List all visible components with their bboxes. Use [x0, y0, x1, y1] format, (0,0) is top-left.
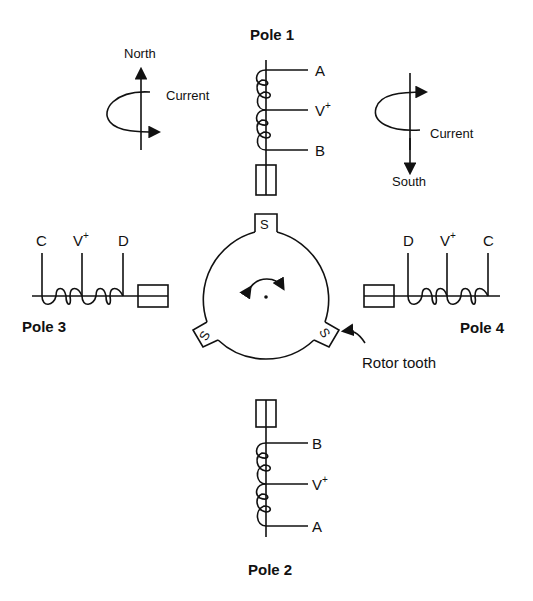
tap-b: B [312, 435, 322, 452]
rotor-tooth-label: Rotor tooth [362, 354, 436, 371]
tap-c: C [483, 232, 494, 249]
stepper-motor-diagram: Pole 1 A V+ B North Current Current Sout… [0, 0, 533, 601]
pole-1: Pole 1 A V+ B [250, 26, 331, 195]
north-label: North [124, 46, 156, 61]
pole-4-label: Pole 4 [460, 319, 505, 336]
svg-text:S: S [316, 325, 333, 340]
tap-vplus: V+ [312, 474, 328, 493]
north-indicator: North Current [107, 46, 210, 150]
tap-vplus: V+ [440, 230, 456, 249]
pole-2: B V+ A Pole 2 [248, 400, 328, 578]
pole-1-label: Pole 1 [250, 26, 294, 43]
tap-c: C [36, 232, 47, 249]
south-label: South [392, 174, 426, 189]
tap-d: D [118, 232, 129, 249]
svg-text:S: S [260, 217, 269, 232]
south-indicator: Current South [375, 73, 473, 189]
pole-4: D V+ C Pole 4 [364, 230, 505, 336]
rotor-tooth-callout: Rotor tooth [344, 331, 436, 371]
pole-3: C V+ D Pole 3 [22, 230, 168, 335]
rotation-arrow [250, 279, 283, 288]
pole-3-label: Pole 3 [22, 318, 66, 335]
tap-vplus: V+ [315, 100, 331, 119]
tap-vplus: V+ [73, 230, 89, 249]
tap-a: A [315, 62, 325, 79]
tap-d: D [403, 232, 414, 249]
rotor: S S S [193, 214, 339, 359]
tap-a: A [312, 518, 322, 535]
current-left-label: Current [166, 88, 210, 103]
pole-2-label: Pole 2 [248, 561, 292, 578]
tap-b: B [315, 142, 325, 159]
current-right-label: Current [430, 126, 474, 141]
